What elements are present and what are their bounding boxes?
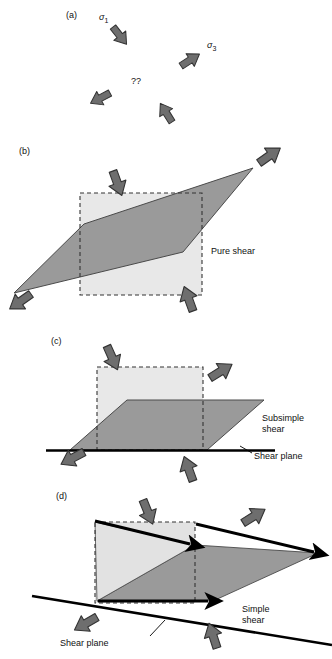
shear-plane-label-c: Shear plane — [254, 451, 303, 461]
pure-shear-caption: Pure shear — [211, 246, 255, 256]
panel-d-graphics — [32, 497, 332, 651]
panel-b-graphics — [5, 141, 286, 317]
simple-shear-caption-line2: shear — [242, 615, 265, 625]
extension-arrow-ne-b — [254, 141, 286, 171]
shortening-arrow-bottom-c — [176, 453, 202, 484]
panel-label-d: (d) — [56, 491, 67, 501]
figure-shear-deformation-diagram: (a) σ1 σ3 ?? (b) Pure shear (c) Subsimpl… — [0, 0, 332, 659]
sigma-1-label: σ1 — [99, 12, 108, 26]
shear-plane-leader-d — [150, 620, 165, 636]
subsimple-shear-caption-line2: shear — [262, 424, 285, 434]
panel-label-b: (b) — [19, 146, 30, 156]
panel-c-graphics — [46, 342, 275, 484]
shear-plane-label-d: Shear plane — [60, 638, 109, 648]
question-label: ?? — [131, 76, 141, 86]
extension-arrow-right-d — [238, 502, 270, 531]
sigma-3-label: σ3 — [207, 40, 216, 54]
lower-right-arrow — [154, 99, 179, 126]
sigma-1-arrow — [107, 22, 133, 49]
panel-label-c: (c) — [51, 336, 62, 346]
diagram-canvas — [0, 0, 332, 659]
panel-label-a: (a) — [66, 10, 77, 20]
extension-arrow-right-c — [205, 357, 237, 386]
simple-shear-caption-line1: Simple — [242, 604, 270, 614]
extension-arrow-left-d — [70, 609, 102, 638]
subsimple-shear-caption-line1: Subsimple — [262, 413, 304, 423]
panel-a-graphics — [87, 22, 204, 126]
lower-left-arrow — [87, 86, 114, 110]
sigma-3-arrow — [177, 48, 204, 73]
